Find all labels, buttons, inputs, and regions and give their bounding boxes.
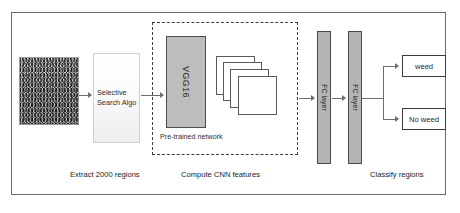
output-box-weed[interactable]: weed	[402, 55, 446, 77]
feature-map-4	[238, 76, 277, 115]
diagram-canvas: Selective Search Algo VGG16 Pre-trained …	[0, 0, 460, 213]
branch-stem-line	[362, 98, 383, 99]
selective-search-label: Selective Search Algo	[94, 88, 136, 108]
caption-extract-regions: Extract 2000 regions	[70, 170, 140, 179]
output-label-weed: weed	[415, 62, 433, 71]
vgg16-block[interactable]: VGG16	[166, 36, 206, 128]
selective-search-line1: Selective	[97, 88, 127, 97]
output-label-no-weed: No weed	[409, 115, 439, 124]
output-box-no-weed[interactable]: No weed	[402, 108, 446, 130]
fc-layer-1-label: FC layer	[321, 84, 328, 110]
pretrained-network-label: Pre-trained network	[160, 132, 223, 141]
arrow-head-to-weed	[395, 63, 399, 69]
arrow-head-to-noweed	[395, 116, 399, 122]
selective-search-line2: Search Algo	[97, 98, 136, 107]
caption-compute-features: Compute CNN features	[181, 170, 260, 179]
fc-layer-1[interactable]: FC layer	[317, 31, 331, 164]
arrow-line-search-to-vgg	[141, 95, 161, 96]
branch-vertical-line	[383, 66, 384, 119]
caption-classify-regions: Classify regions	[370, 170, 424, 179]
arrow-head-features-to-fc1	[311, 95, 315, 101]
selective-search-box[interactable]: Selective Search Algo	[93, 53, 140, 143]
arrow-head-search-to-vgg	[160, 92, 164, 98]
vgg16-label: VGG16	[181, 66, 191, 98]
arrow-head-image-to-search	[88, 92, 92, 98]
fc-layer-2[interactable]: FC layer	[348, 31, 362, 164]
fc-layer-2-label: FC layer	[352, 84, 359, 110]
arrow-head-fc1-to-fc2	[342, 95, 346, 101]
input-image-patch	[19, 57, 79, 125]
